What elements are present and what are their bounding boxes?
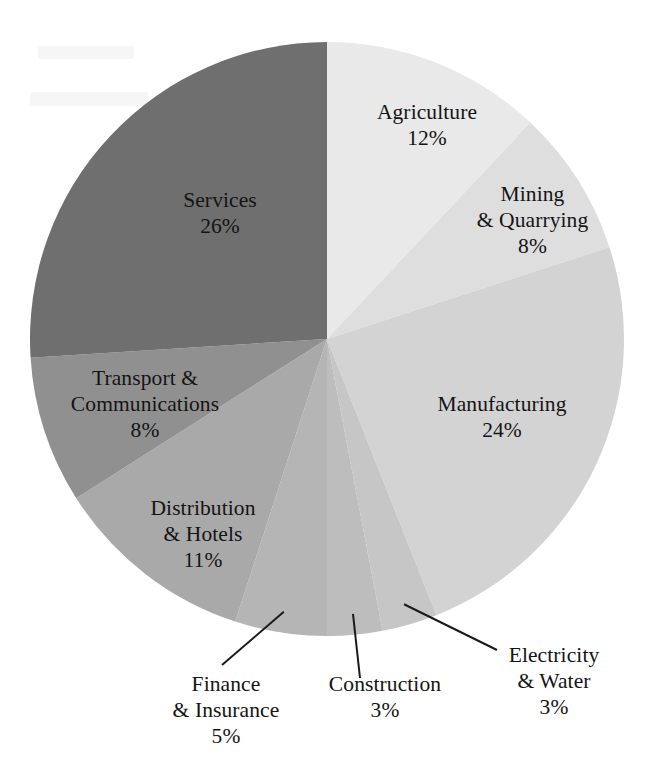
slice-label-percent: 11% xyxy=(110,548,296,574)
slice-label-line1: Finance xyxy=(135,672,317,698)
slice-label-electricity: Electricity & Water 3% xyxy=(473,643,635,720)
slice-label-mining: Mining & Quarrying 8% xyxy=(440,182,625,259)
slice-label-percent: 3% xyxy=(301,698,469,724)
slice-label-line1: Construction xyxy=(301,672,469,698)
slice-label-percent: 12% xyxy=(332,126,522,152)
slice-label-line1: Transport & xyxy=(34,366,256,392)
pie-chart: Agriculture 12% Mining & Quarrying 8% Ma… xyxy=(0,0,645,781)
slice-label-distribution: Distribution & Hotels 11% xyxy=(110,496,296,573)
slice-label-percent: 24% xyxy=(404,418,600,444)
slice-label-line2: Communications xyxy=(34,392,256,418)
slice-label-line1: Distribution xyxy=(110,496,296,522)
slice-label-line2: & Quarrying xyxy=(440,208,625,234)
slice-label-line1: Mining xyxy=(440,182,625,208)
slice-label-manufacturing: Manufacturing 24% xyxy=(404,392,600,444)
slice-label-line1: Electricity xyxy=(473,643,635,669)
slice-label-agriculture: Agriculture 12% xyxy=(332,100,522,152)
slice-label-percent: 5% xyxy=(135,724,317,750)
slice-label-services: Services 26% xyxy=(130,188,310,240)
slice-label-percent: 8% xyxy=(440,234,625,260)
slice-label-line1: Manufacturing xyxy=(404,392,600,418)
slice-label-line2: & Water xyxy=(473,669,635,695)
slice-label-transport: Transport & Communications 8% xyxy=(34,366,256,443)
slice-label-finance: Finance & Insurance 5% xyxy=(135,672,317,749)
slice-label-line2: & Hotels xyxy=(110,522,296,548)
slice-label-line2: & Insurance xyxy=(135,698,317,724)
slice-label-line1: Services xyxy=(130,188,310,214)
slice-label-line1: Agriculture xyxy=(332,100,522,126)
slice-label-percent: 3% xyxy=(473,695,635,721)
slice-label-construction: Construction 3% xyxy=(301,672,469,724)
slice-label-percent: 26% xyxy=(130,214,310,240)
slice-label-percent: 8% xyxy=(34,418,256,444)
